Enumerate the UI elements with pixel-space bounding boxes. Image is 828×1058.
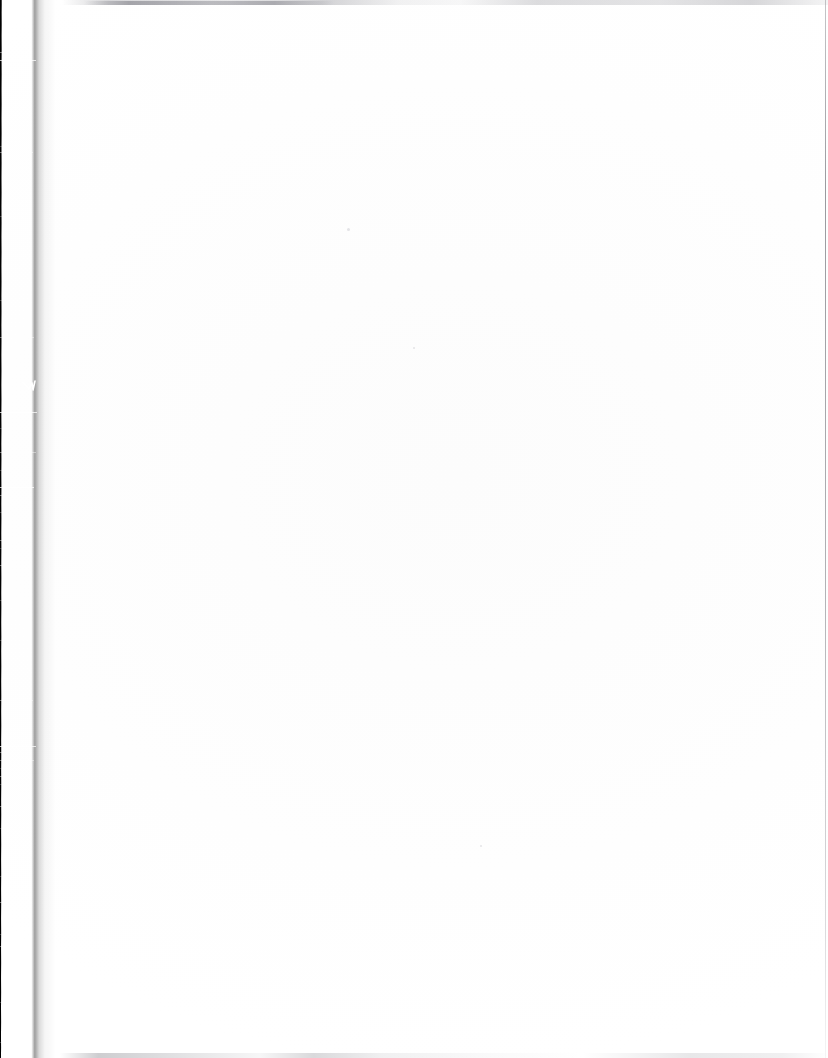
scanned-page [0,0,828,1058]
paper-surface [0,0,828,1058]
